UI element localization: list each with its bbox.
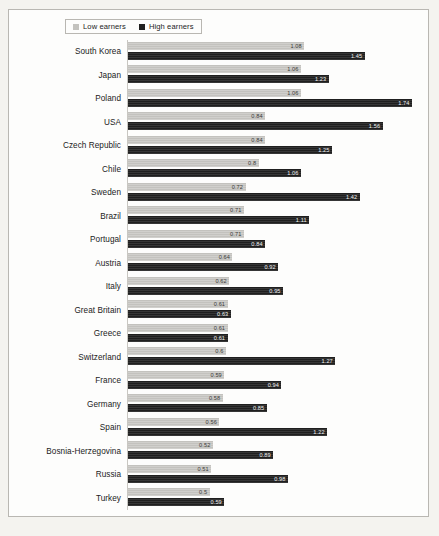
bar-low-earners[interactable]: 0.5 (128, 488, 210, 496)
chart-plot-area: South Korea1.081.45Japan1.061.23Poland1.… (9, 40, 430, 514)
legend-swatch-high-icon (139, 24, 145, 30)
chart-row: Italy0.620.95 (9, 275, 430, 299)
bar-high-earners[interactable]: 1.27 (128, 357, 335, 365)
bar-low-earners[interactable]: 0.84 (128, 112, 265, 120)
bar-value-label: 0.61 (214, 325, 228, 331)
bar-low-earners[interactable]: 0.72 (128, 183, 246, 191)
bar-value-label: 0.8 (248, 160, 259, 166)
bar-high-earners[interactable]: 0.84 (128, 240, 265, 248)
bar-low-earners[interactable]: 0.52 (128, 441, 213, 449)
category-label: Italy (9, 282, 127, 291)
bar-low-earners[interactable]: 1.06 (128, 89, 301, 97)
bar-value-label: 0.61 (214, 335, 228, 341)
legend-entry-low[interactable]: Low earners (73, 22, 126, 31)
category-label: Austria (9, 259, 127, 268)
bar-high-earners[interactable]: 1.22 (128, 428, 327, 436)
bar-group: 0.590.94 (127, 369, 430, 393)
bar-high-earners[interactable]: 0.92 (128, 263, 278, 271)
chart-row: USA0.841.56 (9, 111, 430, 135)
chart-row: Russia0.510.98 (9, 463, 430, 487)
chart-row: Chile0.81.06 (9, 158, 430, 182)
chart-row: Germany0.580.85 (9, 393, 430, 417)
bar-value-label: 1.06 (287, 66, 301, 72)
chart-row: Czech Republic0.841.25 (9, 134, 430, 158)
bar-high-earners[interactable]: 1.56 (128, 122, 383, 130)
chart-row: South Korea1.081.45 (9, 40, 430, 64)
bar-high-earners[interactable]: 1.42 (128, 193, 360, 201)
bar-high-earners[interactable]: 1.23 (128, 75, 329, 83)
bar-value-label: 1.42 (346, 194, 360, 200)
bar-low-earners[interactable]: 1.06 (128, 65, 301, 73)
bar-low-earners[interactable]: 0.71 (128, 206, 244, 214)
bar-low-earners[interactable]: 0.59 (128, 371, 224, 379)
bar-low-earners[interactable]: 0.71 (128, 230, 244, 238)
bar-value-label: 0.84 (251, 241, 265, 247)
bar-low-earners[interactable]: 0.64 (128, 253, 232, 261)
category-label: Brazil (9, 212, 127, 221)
legend-label: High earners (149, 22, 194, 31)
category-label: Germany (9, 400, 127, 409)
bar-group: 0.610.63 (127, 299, 430, 323)
bar-value-label: 1.45 (351, 53, 365, 59)
chart-panel: Low earnersHigh earners South Korea1.081… (8, 9, 429, 517)
category-label: Japan (9, 71, 127, 80)
bar-high-earners[interactable]: 0.61 (128, 334, 228, 342)
category-label: Sweden (9, 188, 127, 197)
bar-value-label: 0.71 (230, 207, 244, 213)
bar-value-label: 0.64 (219, 254, 233, 260)
category-label: Turkey (9, 494, 127, 503)
bar-value-label: 0.59 (211, 499, 225, 505)
bar-value-label: 1.23 (315, 76, 329, 82)
bar-value-label: 1.22 (313, 429, 327, 435)
category-label: Greece (9, 329, 127, 338)
bar-value-label: 1.06 (287, 170, 301, 176)
bar-high-earners[interactable]: 1.74 (128, 99, 412, 107)
bar-value-label: 0.58 (209, 395, 223, 401)
bar-value-label: 0.84 (251, 113, 265, 119)
bar-high-earners[interactable]: 0.98 (128, 475, 288, 483)
bar-low-earners[interactable]: 0.8 (128, 159, 259, 167)
bar-low-earners[interactable]: 0.62 (128, 277, 229, 285)
bar-high-earners[interactable]: 1.06 (128, 169, 301, 177)
bar-group: 0.640.92 (127, 252, 430, 276)
bar-value-label: 0.51 (197, 466, 211, 472)
bar-high-earners[interactable]: 1.11 (128, 216, 309, 224)
bar-low-earners[interactable]: 1.08 (128, 42, 304, 50)
chart-row: Bosnia-Herzegovina0.520.89 (9, 440, 430, 464)
bar-value-label: 1.06 (287, 90, 301, 96)
bar-high-earners[interactable]: 1.25 (128, 146, 332, 154)
chart-row: Switzerland0.61.27 (9, 346, 430, 370)
bar-group: 0.711.11 (127, 205, 430, 229)
legend-entry-high[interactable]: High earners (139, 22, 194, 31)
bar-value-label: 1.11 (296, 217, 309, 223)
bar-high-earners[interactable]: 1.45 (128, 52, 365, 60)
bar-group: 0.510.98 (127, 463, 430, 487)
bar-low-earners[interactable]: 0.84 (128, 136, 265, 144)
category-label: South Korea (9, 47, 127, 56)
category-label: Portugal (9, 235, 127, 244)
bar-high-earners[interactable]: 0.95 (128, 287, 283, 295)
bar-low-earners[interactable]: 0.58 (128, 394, 223, 402)
bar-low-earners[interactable]: 0.6 (128, 347, 226, 355)
chart-row: Great Britain0.610.63 (9, 299, 430, 323)
bar-low-earners[interactable]: 0.61 (128, 324, 228, 332)
bar-high-earners[interactable]: 0.63 (128, 310, 231, 318)
bar-value-label: 0.71 (230, 231, 244, 237)
bar-high-earners[interactable]: 0.85 (128, 404, 267, 412)
bar-group: 0.61.27 (127, 346, 430, 370)
bar-high-earners[interactable]: 0.89 (128, 451, 273, 459)
bar-high-earners[interactable]: 0.59 (128, 498, 224, 506)
bar-high-earners[interactable]: 0.94 (128, 381, 281, 389)
bar-value-label: 0.5 (199, 489, 210, 495)
category-label: Switzerland (9, 353, 127, 362)
bar-low-earners[interactable]: 0.56 (128, 418, 219, 426)
chart-legend: Low earnersHigh earners (65, 19, 202, 34)
bar-value-label: 0.56 (206, 419, 220, 425)
bar-low-earners[interactable]: 0.61 (128, 300, 228, 308)
bar-group: 0.841.25 (127, 134, 430, 158)
bar-low-earners[interactable]: 0.51 (128, 465, 211, 473)
bar-group: 1.061.23 (127, 64, 430, 88)
bar-value-label: 0.63 (217, 311, 231, 317)
chart-row: Poland1.061.74 (9, 87, 430, 111)
bar-group: 0.841.56 (127, 111, 430, 135)
